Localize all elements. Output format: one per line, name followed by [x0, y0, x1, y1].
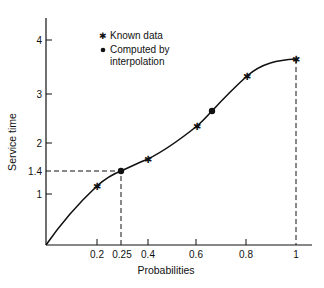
asterisk-icon: ✱ — [144, 154, 152, 165]
x-tick-label: 1 — [293, 249, 299, 260]
x-tick-label: 0.6 — [189, 249, 203, 260]
asterisk-icon: ✱ — [292, 54, 300, 65]
dot-icon — [118, 168, 124, 174]
y-tick-label: 1 — [36, 189, 42, 200]
x-tick-label: 0.4 — [141, 249, 155, 260]
dot-icon — [101, 48, 106, 53]
x-tick-label: 0.25 — [112, 249, 132, 260]
legend-label-computed-2: interpolation — [110, 56, 164, 67]
x-axis-title: Probabilities — [137, 264, 194, 276]
interpolation-curve — [46, 59, 296, 245]
chart: 4 3 2 1.4 1 0.2 0.25 0.4 0.6 0.8 1 Proba… — [0, 0, 324, 288]
legend-label-computed: Computed by — [110, 44, 169, 55]
y-tick-label: 2 — [36, 138, 42, 149]
x-tick-label: 0.8 — [239, 249, 253, 260]
y-axis-title: Service time — [6, 113, 18, 171]
y-tick-label: 3 — [36, 89, 42, 100]
legend: ✱ Known data Computed by interpolation — [99, 30, 169, 67]
asterisk-icon: ✱ — [193, 121, 201, 132]
asterisk-icon: ✱ — [243, 71, 251, 82]
y-tick-label: 1.4 — [28, 166, 42, 177]
x-tick-label: 0.2 — [90, 249, 104, 260]
asterisk-icon: ✱ — [99, 31, 107, 41]
dot-icon — [209, 108, 215, 114]
y-tick-label: 4 — [36, 35, 42, 46]
legend-label-known: Known data — [110, 30, 163, 41]
asterisk-icon: ✱ — [93, 181, 101, 192]
dashed-guides — [46, 59, 296, 245]
x-ticks — [97, 239, 246, 245]
